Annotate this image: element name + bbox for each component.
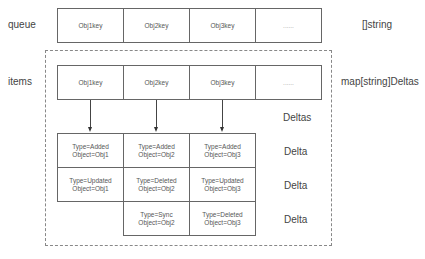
arrow-obj1: [90, 100, 91, 128]
delta-type: Type=Updated: [201, 177, 243, 185]
queue-cell-text: Obj2key: [145, 22, 169, 30]
delta-object: Object=Obj3: [204, 185, 240, 193]
queue-cell-text: Obj3key: [211, 22, 235, 30]
delta-type: Type=Deleted: [136, 177, 176, 185]
queue-cell-text: ......: [283, 22, 294, 30]
items-cell-text: Obj1key: [79, 79, 103, 87]
delta-object: Object=Obj2: [138, 185, 174, 193]
delta-row-label: Delta: [284, 146, 307, 157]
delta-cell: Type=Added Object=Obj1: [57, 133, 124, 168]
delta-type: Type=Added: [72, 143, 109, 151]
arrow-obj2: [156, 100, 157, 128]
delta-cell: Type=Deleted Object=Obj3: [189, 201, 256, 236]
delta-cell: Type=Added Object=Obj2: [123, 133, 190, 168]
delta-type: Type=Added: [138, 143, 175, 151]
delta-type: Type=Deleted: [202, 211, 242, 219]
delta-cell: Type=Sync Object=Obj2: [123, 201, 190, 236]
items-cell-obj1key: Obj1key: [57, 65, 124, 100]
queue-cell-obj3key: Obj3key: [189, 8, 256, 43]
items-cell-text: ......: [283, 79, 294, 87]
delta-object: Object=Obj2: [138, 219, 174, 227]
delta-cell: Type=Updated Object=Obj1: [57, 167, 124, 202]
items-cell-obj2key: Obj2key: [123, 65, 190, 100]
deltas-label: Deltas: [283, 112, 311, 123]
items-label: items: [8, 76, 32, 87]
items-cell-obj3key: Obj3key: [189, 65, 256, 100]
queue-cell-ellipsis: ......: [255, 8, 322, 43]
arrow-head-icon: [88, 127, 92, 132]
arrow-head-icon: [154, 127, 158, 132]
items-cell-ellipsis: ......: [255, 65, 322, 100]
delta-row-label: Delta: [284, 214, 307, 225]
delta-cell: Type=Deleted Object=Obj2: [123, 167, 190, 202]
items-type-label: map[string]Deltas: [341, 76, 419, 87]
arrow-head-icon: [220, 127, 224, 132]
delta-type: Type=Sync: [140, 211, 172, 219]
delta-row-label: Delta: [284, 180, 307, 191]
queue-type-label: []string: [362, 19, 392, 30]
items-cell-text: Obj2key: [145, 79, 169, 87]
delta-object: Object=Obj1: [72, 151, 108, 159]
queue-cell-text: Obj1key: [79, 22, 103, 30]
queue-cell-obj2key: Obj2key: [123, 8, 190, 43]
delta-type: Type=Added: [204, 143, 241, 151]
delta-object: Object=Obj3: [204, 151, 240, 159]
queue-label: queue: [8, 19, 36, 30]
delta-object: Object=Obj3: [204, 219, 240, 227]
delta-cell: Type=Added Object=Obj3: [189, 133, 256, 168]
arrow-obj3: [222, 100, 223, 128]
delta-type: Type=Updated: [69, 177, 111, 185]
delta-object: Object=Obj2: [138, 151, 174, 159]
delta-object: Object=Obj1: [72, 185, 108, 193]
delta-cell: Type=Updated Object=Obj3: [189, 167, 256, 202]
items-cell-text: Obj3key: [211, 79, 235, 87]
queue-cell-obj1key: Obj1key: [57, 8, 124, 43]
